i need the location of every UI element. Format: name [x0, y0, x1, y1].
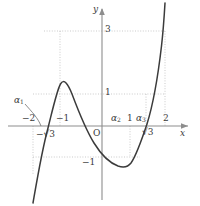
callout-label-alpha1: α1: [14, 96, 24, 105]
cubic-curve: [33, 3, 165, 203]
axes: [8, 9, 188, 200]
alpha2-subscript: 2: [117, 116, 121, 123]
root-label-alpha3: α3: [136, 114, 146, 123]
x-tick-neg-sqrt3: −√3: [36, 130, 55, 139]
origin-label: O: [93, 129, 100, 138]
y-tick-neg1: −1: [82, 158, 95, 167]
y-tick-1: 1: [105, 88, 111, 97]
guide-lines: [33, 31, 165, 175]
y-tick-3: 3: [105, 25, 111, 34]
x-tick-one: 1: [127, 114, 133, 123]
x-tick-neg1: −1: [56, 114, 69, 123]
root-label-alpha2: α2: [111, 114, 121, 123]
x-axis-label: x: [180, 129, 185, 138]
y-axis-arrow: [99, 8, 105, 15]
x-tick-two: 2: [163, 114, 169, 123]
x-tick-neg2: −2: [22, 114, 35, 123]
y-axis-label: y: [93, 5, 98, 14]
alpha3-subscript: 3: [142, 116, 146, 123]
cubic-function-graph: y x O 3 1 −1 −2 −1 1 2 α2 α3 −√3 √3 α1: [0, 0, 200, 206]
graph-canvas: [0, 0, 200, 206]
x-tick-sqrt3: √3: [142, 128, 153, 137]
alpha1-subscript: 1: [20, 98, 24, 105]
